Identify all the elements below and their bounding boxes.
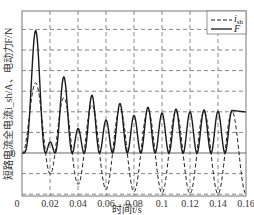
x-tick-label: 0.16 <box>237 198 254 209</box>
legend-label-f: F <box>233 23 241 34</box>
x-tick-label: 0.1 <box>156 198 169 209</box>
legend: ish F <box>207 11 246 34</box>
x-tick-label: 0 <box>15 198 20 209</box>
x-tick-label: 0.14 <box>209 198 227 209</box>
grid-lines <box>22 11 246 196</box>
x-tick-label: 0.12 <box>181 198 199 209</box>
x-tick-label: 0.04 <box>69 198 87 209</box>
y-axis-label: 短路电流全电流i_sh/A、电动力F/N <box>2 28 14 180</box>
chart: ish F 00.020.040.060.080.10.120.140.16 0… <box>0 0 254 215</box>
x-tick-label: 0.02 <box>41 198 59 209</box>
x-axis-label: 时间t/s <box>112 203 142 215</box>
